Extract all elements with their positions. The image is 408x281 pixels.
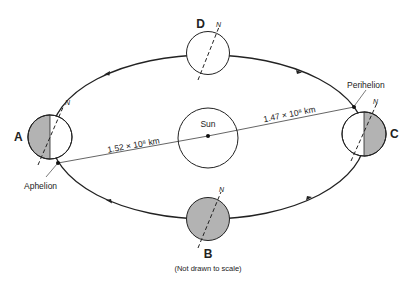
earth-position-a: N A — [14, 99, 72, 165]
position-label-c: C — [390, 127, 399, 141]
aphelion-label: Aphelion — [24, 181, 57, 191]
shaded-night-side — [28, 115, 50, 159]
earth-position-b: N B — [187, 186, 230, 261]
north-label: N — [373, 98, 379, 105]
position-label-d: D — [196, 17, 205, 31]
perihelion-leader-line — [355, 90, 366, 105]
orbit-diagram: Sun N A N B N C N D Aphelion 1.52 × 10⁸ — [0, 0, 408, 281]
shaded-night-side — [364, 112, 386, 156]
sun-label: Sun — [200, 119, 215, 129]
perihelion-label: Perihelion — [347, 80, 385, 90]
earth-position-d: N D — [187, 17, 230, 80]
scale-note: (Not drawn to scale) — [174, 264, 242, 273]
north-label: N — [65, 99, 71, 106]
sun: Sun — [178, 108, 238, 168]
position-label-b: B — [204, 247, 213, 261]
north-label: N — [219, 186, 225, 193]
sun-center-dot — [206, 134, 210, 138]
aphelion-leader-line — [46, 164, 57, 177]
aphelion-distance-label: 1.52 × 10⁸ km — [107, 135, 161, 154]
north-label: N — [216, 21, 222, 28]
perihelion-distance-label: 1.47 × 10⁸ km — [262, 104, 316, 124]
position-label-a: A — [14, 130, 23, 144]
